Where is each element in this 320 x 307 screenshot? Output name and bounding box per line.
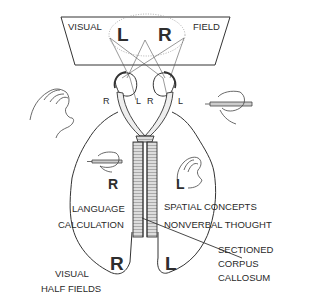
visual-field-right-letter: R: [158, 24, 172, 46]
visual-field-left-letter: L: [117, 24, 129, 46]
hemisphere-lower-right-letter: L: [165, 253, 177, 275]
hemisphere-lower-left-letter: R: [110, 253, 124, 275]
hemisphere-upper-right-letter: L: [176, 176, 185, 192]
visual-field-right-label: FIELD: [193, 21, 220, 32]
visual-field-left-label: VISUAL: [68, 21, 102, 32]
hemisphere-upper-left-letter: R: [108, 176, 118, 192]
optic-pathway: [117, 92, 173, 142]
function-calculation: CALCULATION: [58, 219, 124, 230]
visual-half-fields-label-2: HALF FIELDS: [41, 283, 101, 294]
writing-hand-icon: [205, 91, 252, 124]
corpus-callosum-label-1: SECTIONED: [218, 244, 273, 255]
corpus-callosum-label-3: CALLOSUM: [218, 272, 270, 283]
projection-lines: [110, 38, 184, 100]
writing-hand-icon: [87, 152, 122, 172]
eye-label-right-outer: L: [178, 96, 183, 106]
open-hand-icon: [30, 89, 74, 138]
visual-half-fields-label-1: VISUAL: [55, 268, 89, 279]
eye-label-right-inner: R: [147, 96, 154, 106]
function-nonverbal-thought: NONVERBAL THOUGHT: [164, 219, 272, 230]
eye-label-left-outer: R: [103, 96, 110, 106]
eye-label-left-inner: L: [136, 96, 141, 106]
function-language: LANGUAGE: [72, 203, 125, 214]
function-spatial-concepts: SPATIAL CONCEPTS: [164, 201, 257, 212]
corpus-callosum-label-2: CORPUS: [218, 258, 259, 269]
